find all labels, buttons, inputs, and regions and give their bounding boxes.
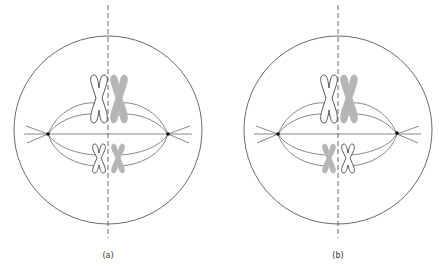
centrosome-left <box>46 132 50 136</box>
panel-a-label: (a) <box>102 251 113 260</box>
chromosome-large-white <box>91 75 108 123</box>
chromosome-small-white <box>342 144 355 173</box>
chromosome-large-gray <box>341 75 358 123</box>
panel-b-label: (b) <box>332 251 343 260</box>
chromosome-large-white <box>321 75 338 123</box>
cell-division-diagram <box>0 0 439 271</box>
panel-a <box>14 5 202 238</box>
centrosome-right <box>395 131 399 135</box>
panel-b <box>244 5 432 238</box>
chromosome-small-gray <box>112 144 125 173</box>
centrosome-right <box>166 132 170 136</box>
chromosome-large-gray <box>111 75 128 123</box>
chromosome-small-white <box>93 144 106 173</box>
chromosome-small-gray <box>323 144 336 173</box>
centrosome-left <box>276 132 280 136</box>
